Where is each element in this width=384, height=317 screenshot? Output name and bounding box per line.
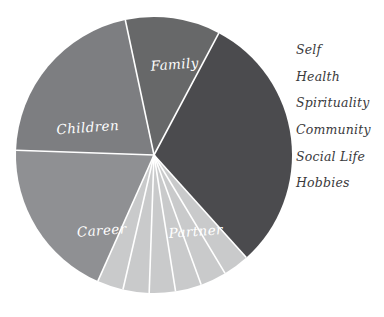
bottom-margin: [0, 313, 384, 317]
slice-label-family: Family: [149, 54, 199, 73]
legend-item-health[interactable]: Health: [296, 71, 382, 84]
legend-item-spirituality[interactable]: Spirituality: [296, 97, 382, 110]
legend-item-hobbies[interactable]: Hobbies: [296, 177, 382, 190]
legend-item-self[interactable]: Self: [296, 44, 382, 57]
legend-item-social-life[interactable]: Social Life: [296, 151, 382, 164]
pie-chart: FamilyPartnerCareerChildren SelfHealthSp…: [0, 0, 384, 317]
legend-item-community[interactable]: Community: [296, 124, 382, 137]
legend: SelfHealthSpiritualityCommunitySocial Li…: [296, 44, 382, 204]
